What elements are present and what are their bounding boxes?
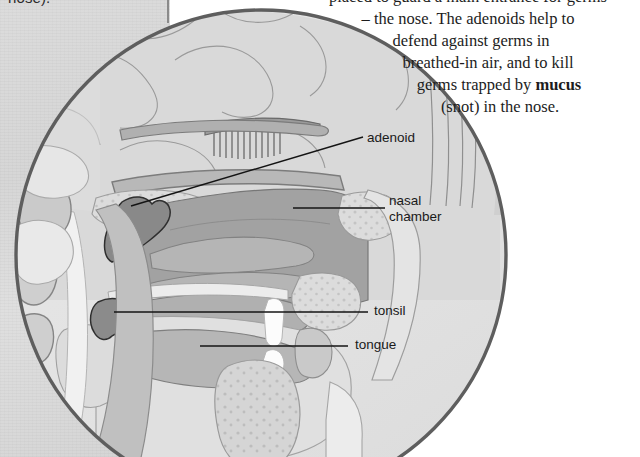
bold-term-mucus: mucus	[535, 75, 581, 94]
label-adenoid: adenoid	[367, 130, 415, 146]
upper-tooth	[264, 299, 284, 347]
body-line-5: germs trapped by mucus	[300, 74, 636, 96]
body-line-3: defend against germs in	[300, 30, 636, 52]
body-line-4: breathed-in air, and to kill	[300, 52, 636, 74]
page-root: nose).	[0, 0, 640, 457]
body-line-5-text: germs trapped by	[417, 75, 536, 94]
label-nasal-chamber: nasal chamber	[389, 193, 442, 225]
epiglottis	[295, 328, 332, 377]
body-line-6: (snot) in the nose.	[300, 96, 636, 118]
body-line-2: – the nose. The adenoids help to	[300, 8, 636, 30]
label-tongue: tongue	[355, 337, 396, 353]
label-tonsil: tonsil	[374, 303, 406, 319]
mandible-bone	[215, 360, 300, 457]
body-paragraph: placed to guard a main entrance for germ…	[300, 0, 636, 118]
body-line-1: placed to guard a main entrance for germ…	[300, 0, 636, 8]
maxilla-bone	[292, 273, 361, 330]
